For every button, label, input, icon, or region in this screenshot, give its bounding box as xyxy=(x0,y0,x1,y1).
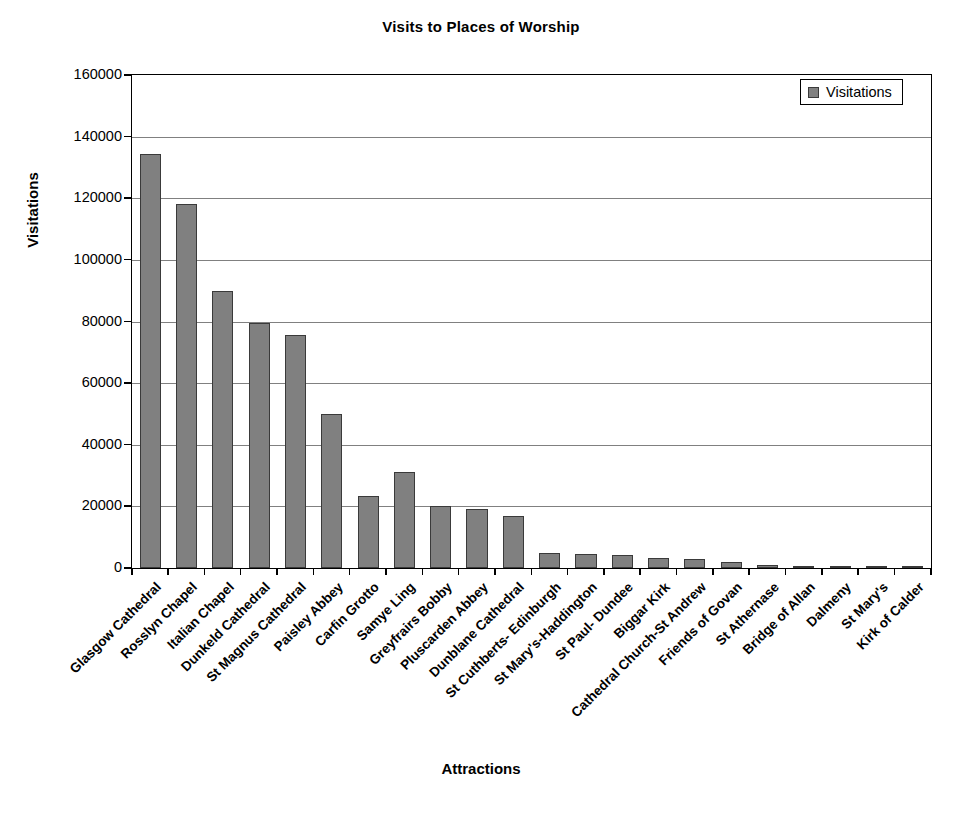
gridline xyxy=(132,137,931,138)
chart-title: Visits to Places of Worship xyxy=(0,18,962,35)
y-axis-tick-mark xyxy=(124,74,131,76)
bar xyxy=(466,509,487,568)
bar xyxy=(176,204,197,568)
x-axis-category-label: Biggar Kirk xyxy=(379,579,673,815)
x-axis-tick-mark xyxy=(821,568,823,575)
x-axis-category-label: St Athernase xyxy=(488,579,782,815)
x-axis-category-label: Glasgow Cathedral xyxy=(0,579,165,815)
bar xyxy=(612,555,633,568)
x-axis-tick-mark xyxy=(422,568,424,575)
x-axis-category-label: St Mary's xyxy=(597,579,891,815)
x-axis-category-label: St Paul- Dundee xyxy=(343,579,637,815)
y-axis-tick-mark xyxy=(124,259,131,261)
x-axis-tick-mark xyxy=(748,568,750,575)
bar xyxy=(539,553,560,568)
bar xyxy=(140,154,161,568)
x-axis-tick-mark xyxy=(894,568,896,575)
x-axis-category-label: Pluscarden Abbey xyxy=(198,579,492,815)
y-axis-tick-mark xyxy=(124,382,131,384)
y-axis-tick-mark xyxy=(124,444,131,446)
x-axis-category-label: Kirk of Calder xyxy=(633,579,927,815)
y-axis-tick-label: 160000 xyxy=(22,67,122,81)
x-axis-category-label: Dunkeld Cathedral xyxy=(0,579,274,815)
bar xyxy=(249,323,270,568)
y-axis-tick-labels: 0200004000060000800001000001200001400001… xyxy=(16,74,122,567)
x-axis-tick-mark xyxy=(240,568,242,575)
y-axis-tick-mark xyxy=(124,136,131,138)
y-axis-tick-label: 60000 xyxy=(22,375,122,389)
x-axis-tick-mark xyxy=(639,568,641,575)
x-axis-tick-mark xyxy=(276,568,278,575)
x-axis-tick-mark xyxy=(385,568,387,575)
legend-swatch-icon xyxy=(808,87,819,98)
x-axis-category-label: Bridge of Allan xyxy=(524,579,818,815)
bar xyxy=(503,516,524,568)
y-axis-tick-label: 140000 xyxy=(22,129,122,143)
x-axis-tick-mark xyxy=(349,568,351,575)
x-axis-tick-mark xyxy=(712,568,714,575)
x-axis-category-label: Paisley Abbey xyxy=(52,579,346,815)
x-axis-category-label: Dunblane Cathedral xyxy=(234,579,528,815)
gridline xyxy=(132,198,931,199)
gridline xyxy=(132,260,931,261)
bar xyxy=(430,506,451,568)
x-axis-tick-marks xyxy=(131,568,930,576)
bar xyxy=(358,496,379,568)
x-axis-tick-mark xyxy=(603,568,605,575)
x-axis-tick-mark xyxy=(785,568,787,575)
x-axis-category-label: Italian Chapel xyxy=(0,579,237,815)
x-axis-category-label: Friends of Govan xyxy=(452,579,746,815)
x-axis-tick-mark xyxy=(567,568,569,575)
y-axis-tick-label: 120000 xyxy=(22,190,122,204)
x-axis-category-label: Dalmeny xyxy=(561,579,855,815)
x-axis-tick-mark xyxy=(531,568,533,575)
x-axis-tick-mark xyxy=(204,568,206,575)
y-axis-tick-label: 100000 xyxy=(22,252,122,266)
y-axis-tick-label: 0 xyxy=(22,560,122,574)
legend: Visitations xyxy=(800,79,903,105)
x-axis-tick-mark xyxy=(676,568,678,575)
y-axis-tick-mark xyxy=(124,321,131,323)
x-axis-tick-mark xyxy=(857,568,859,575)
bar xyxy=(648,558,669,568)
x-axis-category-label: St Mary's-Haddington xyxy=(306,579,600,815)
x-axis-category-label: St Magnus Cathedral xyxy=(16,579,310,815)
bar xyxy=(321,414,342,568)
y-axis-tick-mark xyxy=(124,505,131,507)
bar xyxy=(285,335,306,568)
bar xyxy=(684,559,705,568)
bar xyxy=(394,472,415,568)
x-axis-category-label: Greyfrairs Bobby xyxy=(161,579,455,815)
x-axis-tick-mark xyxy=(313,568,315,575)
chart-container: Visits to Places of Worship Visitations … xyxy=(0,0,962,815)
y-axis-tick-mark xyxy=(124,197,131,199)
plot-area xyxy=(131,74,932,569)
x-axis-tick-mark xyxy=(131,568,133,575)
x-axis-tick-mark xyxy=(458,568,460,575)
y-axis-tick-label: 80000 xyxy=(22,314,122,328)
bar xyxy=(575,554,596,568)
x-axis-title: Attractions xyxy=(0,760,962,777)
x-axis-category-label: St Cuthberts- Edinburgh xyxy=(270,579,564,815)
x-axis-category-label: Samye Ling xyxy=(125,579,419,815)
x-axis-tick-mark xyxy=(930,568,932,575)
y-axis-tick-mark xyxy=(124,567,131,569)
x-axis-category-label: Rosslyn Chapel xyxy=(0,579,201,815)
x-axis-tick-mark xyxy=(494,568,496,575)
legend-entry-label: Visitations xyxy=(826,84,892,100)
y-axis-tick-label: 40000 xyxy=(22,437,122,451)
bar xyxy=(212,291,233,568)
y-axis-tick-label: 20000 xyxy=(22,498,122,512)
x-axis-category-label: Carfin Grotto xyxy=(89,579,383,815)
x-axis-tick-mark xyxy=(167,568,169,575)
x-axis-category-label: Cathedral Church-St Andrew xyxy=(415,579,709,815)
